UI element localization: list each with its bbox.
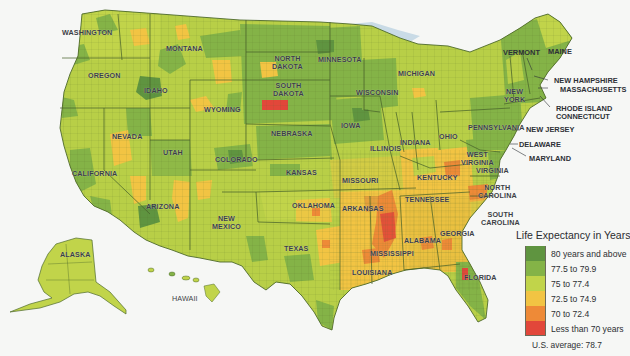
us-average: U.S. average: 78.7 <box>532 340 602 350</box>
state-label-nevada: Nevada <box>112 133 142 141</box>
callout-new-hampshire: NEW HAMPSHIRE <box>554 76 618 85</box>
state-label-utah: Utah <box>163 149 183 157</box>
legend-label: 80 years and above <box>551 249 627 259</box>
state-label-new-york: New York <box>504 88 525 103</box>
legend-label: 72.5 to 74.9 <box>551 294 596 304</box>
callout-maine: MAINE <box>548 47 572 56</box>
state-label-idaho: Idaho <box>144 87 168 95</box>
legend-item-80-plus: 80 years and above <box>525 246 630 261</box>
legend-swatch <box>525 261 546 276</box>
legend-item-72-5-to-74-9: 72.5 to 74.9 <box>525 291 630 306</box>
legend-swatch <box>525 321 546 336</box>
state-label-california: California <box>72 170 117 178</box>
state-label-wyoming: Wyoming <box>204 106 241 114</box>
legend: Life Expectancy in Years 80 years and ab… <box>518 229 630 336</box>
state-label-louisiana: Louisiana <box>352 269 392 277</box>
state-label-illinois: Illinois <box>370 145 401 153</box>
state-label-north-dakota: North Dakota <box>272 55 303 70</box>
state-label-virginia: Virginia <box>476 167 509 175</box>
callout-new-jersey: NEW JERSEY <box>526 125 574 134</box>
state-label-mississippi: Mississippi <box>370 250 414 258</box>
legend-item-70-to-72-4: 70 to 72.4 <box>525 306 630 321</box>
callout-massachusetts: MASSACHUSETTS <box>560 85 627 94</box>
state-label-texas: Texas <box>284 245 308 253</box>
legend-swatch <box>525 276 546 291</box>
state-label-alaska: Alaska <box>60 251 91 259</box>
state-label-alabama: Alabama <box>404 237 441 245</box>
state-label-florida: Florida <box>464 274 497 282</box>
legend-title: Life Expectancy in Years <box>516 229 628 241</box>
state-label-minnesota: Minnesota <box>318 56 362 64</box>
state-label-arkansas: Arkansas <box>342 205 384 213</box>
state-label-kentucky: Kentucky <box>417 174 458 182</box>
legend-swatch <box>525 291 546 306</box>
callout-maryland: MARYLAND <box>529 154 571 163</box>
state-label-colorado: Colorado <box>215 156 258 164</box>
state-label-nebraska: Nebraska <box>271 130 313 138</box>
legend-swatch <box>525 306 546 321</box>
state-label-south-dakota: South Dakota <box>273 82 304 97</box>
state-label-oregon: Oregon <box>88 72 121 80</box>
state-label-west-virginia: West Virginia <box>461 151 494 166</box>
state-label-oklahoma: Oklahoma <box>292 202 335 210</box>
state-label-ohio: Ohio <box>439 133 458 141</box>
legend-item-77-5-to-79-9: 77.5 to 79.9 <box>525 261 630 276</box>
state-label-iowa: Iowa <box>341 122 361 130</box>
state-label-washington: Washington <box>62 29 112 37</box>
state-label-montana: Montana <box>166 45 203 53</box>
state-label-kansas: Kansas <box>286 169 317 177</box>
legend-label: Less than 70 years <box>551 324 624 334</box>
legend-label: 77.5 to 79.9 <box>551 264 596 274</box>
state-label-georgia: Georgia <box>440 230 475 238</box>
callout-connecticut: CONNECTICUT <box>556 112 610 121</box>
legend-label: 70 to 72.4 <box>551 309 589 319</box>
state-label-missouri: Missouri <box>342 177 378 185</box>
state-label-tennessee: Tennessee <box>405 196 449 204</box>
state-label-hawaii: Hawaii <box>172 295 198 303</box>
state-label-south-carolina: South Carolina <box>481 211 520 226</box>
callout-delaware: DELAWARE <box>519 140 561 149</box>
state-label-new-mexico: New Mexico <box>212 215 241 230</box>
legend-label: 75 to 77.4 <box>551 279 589 289</box>
state-label-michigan: Michigan <box>398 70 435 78</box>
callout-vermont: VERMONT <box>503 48 540 57</box>
state-label-indiana: Indiana <box>400 139 431 147</box>
legend-item-less-than-70: Less than 70 years <box>525 321 630 336</box>
state-label-pennsylvania: Pennsylvania <box>468 124 524 132</box>
legend-swatch <box>525 246 546 261</box>
state-label-arizona: Arizona <box>146 203 179 211</box>
legend-item-75-to-77-4: 75 to 77.4 <box>525 276 630 291</box>
state-label-wisconsin: Wisconsin <box>356 89 398 97</box>
state-label-north-carolina: North Carolina <box>478 184 517 199</box>
